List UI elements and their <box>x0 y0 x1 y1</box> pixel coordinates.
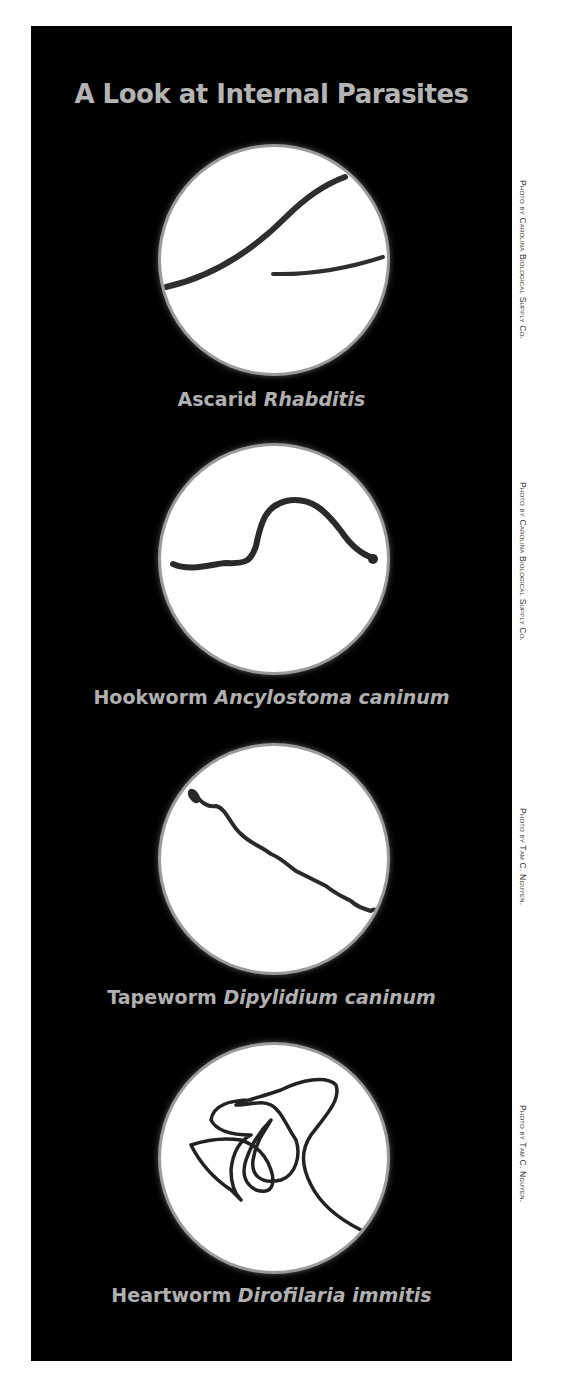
tapeworm-worm-icon <box>161 746 387 972</box>
infographic-panel: A Look at Internal Parasites Ascarid Rha… <box>31 26 512 1361</box>
page-title: A Look at Internal Parasites <box>31 79 512 109</box>
heartworm-worm-icon <box>161 1045 387 1271</box>
heartworm-caption: Heartworm Dirofilaria immitis <box>31 1284 512 1306</box>
heartworm-photo <box>161 1045 387 1271</box>
photo-credit-heartworm: Photo by Tam C. Nguyen. <box>518 1105 528 1202</box>
ascarid-worm-icon <box>161 147 387 373</box>
tapeworm-photo <box>161 746 387 972</box>
photo-credit-tapeworm: Photo by Tam C. Nguyen. <box>518 808 528 905</box>
hookworm-caption: Hookworm Ancylostoma caninum <box>31 686 512 708</box>
tapeworm-caption: Tapeworm Dipylidium caninum <box>31 986 512 1008</box>
hookworm-worm-icon <box>161 446 387 672</box>
photo-credit-ascarid: Photo by Carolina Biological Supply Co. <box>518 180 528 339</box>
hookworm-photo <box>161 446 387 672</box>
ascarid-photo <box>161 147 387 373</box>
ascarid-caption: Ascarid Rhabditis <box>31 388 512 410</box>
photo-credit-hookworm: Photo by Carolina Biological Supply Co. <box>518 482 528 641</box>
